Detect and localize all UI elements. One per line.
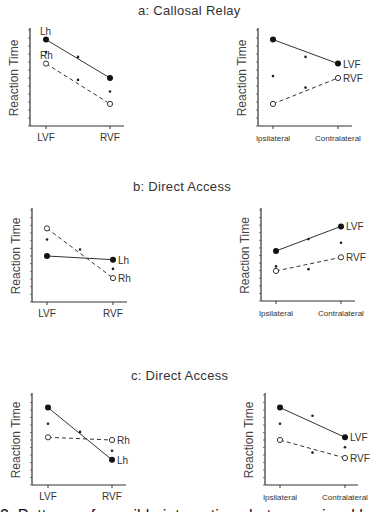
asterisk-marker [109, 90, 112, 93]
figure-plots: LVFRVFReaction TimeLhRhIpsilateralContra… [0, 0, 378, 512]
asterisk-marker [46, 238, 49, 241]
open-circle-marker [273, 268, 278, 273]
asterisk-marker [47, 423, 50, 426]
filled-circle-marker [107, 75, 113, 81]
x-tick-label: LVF [39, 491, 57, 502]
asterisk-marker [79, 431, 82, 434]
asterisk-marker [304, 56, 307, 59]
series-line-rvf [273, 78, 338, 104]
filled-circle-marker [110, 257, 116, 263]
open-circle-marker [270, 101, 275, 106]
series-line-rh [46, 64, 110, 104]
series-line-lvf [273, 40, 338, 64]
x-tick-label: RVF [100, 132, 120, 143]
open-circle-marker [109, 437, 114, 442]
series-label: RVF [346, 252, 366, 263]
x-tick-label: RVF [102, 491, 122, 502]
y-axis-label: Reaction Time [235, 39, 249, 116]
series-line-lh [46, 40, 110, 78]
asterisk-marker [311, 414, 314, 417]
open-circle-marker [107, 101, 112, 106]
asterisk-marker [340, 241, 343, 244]
open-circle-marker [342, 455, 347, 460]
y-axis-label: Reaction Time [238, 217, 252, 294]
y-axis-label: Reaction Time [242, 401, 256, 478]
asterisk-marker [307, 238, 310, 241]
series-label: RVF [343, 73, 363, 84]
filled-circle-marker [335, 61, 341, 67]
filled-circle-marker [43, 37, 49, 43]
x-tick-label: LVF [38, 308, 56, 319]
filled-circle-marker [270, 37, 276, 43]
x-tick-label: Contralateral [318, 309, 364, 318]
y-axis-label: Reaction Time [9, 217, 23, 294]
y-axis-label: Reaction Time [9, 401, 23, 478]
series-label: Rh [117, 435, 130, 446]
open-circle-marker [335, 75, 340, 80]
filled-circle-marker [277, 405, 283, 411]
asterisk-marker [304, 86, 307, 89]
filled-circle-marker [338, 223, 344, 229]
series-label: LVF [346, 221, 364, 232]
open-circle-marker [110, 275, 115, 280]
x-tick-label: Ipsilateral [263, 493, 297, 502]
series-line-rh [48, 437, 112, 440]
series-label: Lh [40, 26, 51, 37]
asterisk-marker [307, 268, 310, 271]
series-label: Lh [117, 455, 128, 466]
x-tick-label: LVF [37, 132, 55, 143]
y-axis-label: Reaction Time [7, 39, 21, 116]
asterisk-marker [45, 51, 48, 54]
series-label: Lh [118, 255, 129, 266]
asterisk-marker [344, 446, 347, 449]
x-tick-label: RVF [103, 308, 123, 319]
asterisk-marker [311, 451, 314, 454]
series-line-lh [48, 408, 112, 460]
series-line-rh [47, 228, 113, 278]
figure-caption-partial: 2. Patterns of possible interactions bet… [0, 505, 378, 512]
x-tick-label: Ipsilateral [256, 134, 290, 143]
filled-circle-marker [45, 405, 51, 411]
series-label: LVF [350, 432, 368, 443]
filled-circle-marker [44, 253, 50, 259]
x-tick-label: Ipsilateral [259, 309, 293, 318]
x-tick-label: Contralateral [315, 134, 361, 143]
x-tick-label: Contralateral [322, 493, 368, 502]
series-label: RVF [350, 453, 370, 464]
asterisk-marker [111, 450, 114, 453]
series-label: Rh [118, 273, 131, 284]
asterisk-marker [279, 423, 282, 426]
asterisk-marker [112, 268, 115, 271]
open-circle-marker [338, 255, 343, 260]
asterisk-marker [275, 265, 278, 268]
filled-circle-marker [109, 457, 115, 463]
series-line-lvf [280, 408, 345, 438]
asterisk-marker [77, 79, 80, 82]
filled-circle-marker [342, 434, 348, 440]
open-circle-marker [43, 61, 48, 66]
open-circle-marker [277, 437, 282, 442]
asterisk-marker [79, 248, 82, 251]
asterisk-marker [77, 56, 80, 59]
open-circle-marker [44, 226, 49, 231]
series-label: LVF [343, 59, 361, 70]
series-line-lh [47, 256, 113, 260]
series-line-rvf [280, 440, 345, 458]
open-circle-marker [45, 435, 50, 440]
filled-circle-marker [273, 248, 279, 254]
asterisk-marker [272, 75, 275, 78]
